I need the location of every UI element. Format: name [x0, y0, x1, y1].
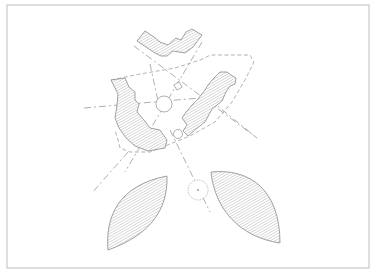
north-stepped-building — [137, 29, 202, 56]
southeast-lens-mass — [211, 172, 280, 243]
tree-symbol — [188, 180, 208, 200]
marker-symbol — [174, 82, 182, 90]
site-plan-drawing — [0, 0, 374, 273]
east-stepped-building — [182, 72, 236, 136]
central-circle — [156, 96, 172, 112]
west-curved-building — [111, 78, 167, 151]
small-circle — [174, 130, 183, 139]
southwest-lens-mass — [108, 176, 167, 250]
